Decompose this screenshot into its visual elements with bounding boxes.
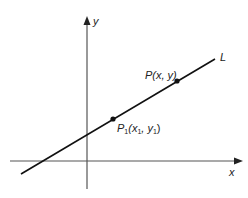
point-P1-marker <box>110 116 115 121</box>
x-axis-label: x <box>229 167 235 178</box>
y-axis-arrow-icon <box>84 16 91 25</box>
x-axis-arrow-icon <box>234 158 243 165</box>
y-axis-label: y <box>93 16 99 27</box>
p1-mid: , y <box>141 122 153 134</box>
coordinate-diagram: y x L P(x, y) P1(x1, y1) <box>0 0 248 198</box>
x-axis <box>10 158 243 165</box>
line-L <box>21 59 215 174</box>
point-P1-label: P1(x1, y1) <box>117 123 161 135</box>
diagram-canvas <box>0 0 248 198</box>
point-P-label: P(x, y) <box>145 70 177 81</box>
p1-close: ) <box>157 122 161 134</box>
point-P-coords: (x, y) <box>152 69 176 81</box>
y-axis <box>84 16 91 189</box>
line-L-label: L <box>220 52 226 63</box>
